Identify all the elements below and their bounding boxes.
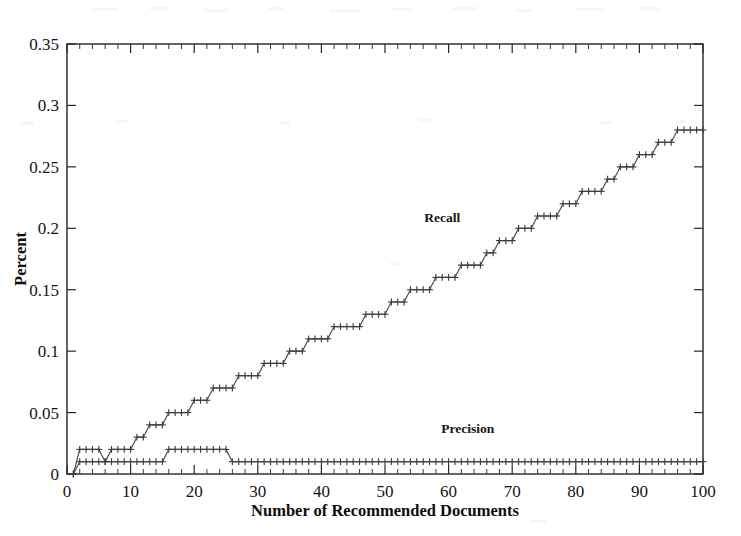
data-point-marker bbox=[687, 127, 694, 134]
data-point-marker bbox=[483, 249, 490, 256]
data-point-marker bbox=[426, 286, 433, 293]
data-point-marker bbox=[299, 348, 306, 355]
data-point-marker bbox=[159, 421, 166, 428]
data-point-marker bbox=[165, 446, 172, 453]
data-point-marker bbox=[413, 286, 420, 293]
data-series-layer bbox=[70, 127, 706, 478]
data-point-marker bbox=[490, 458, 497, 465]
data-point-marker bbox=[223, 385, 230, 392]
data-point-marker bbox=[153, 421, 160, 428]
y-axis-title: Percent bbox=[11, 232, 30, 286]
x-axis-ticks: 0102030405060708090100 bbox=[63, 44, 716, 501]
x-tick-label: 100 bbox=[690, 482, 716, 501]
data-point-marker bbox=[388, 458, 395, 465]
data-point-marker bbox=[204, 397, 211, 404]
data-point-marker bbox=[668, 139, 675, 146]
data-point-marker bbox=[261, 458, 268, 465]
data-point-marker bbox=[89, 446, 96, 453]
data-point-marker bbox=[254, 372, 261, 379]
data-point-marker bbox=[286, 458, 293, 465]
data-point-marker bbox=[617, 163, 624, 170]
data-point-marker bbox=[522, 458, 529, 465]
data-point-marker bbox=[108, 458, 115, 465]
data-point-marker bbox=[464, 458, 471, 465]
y-tick-label: 0.35 bbox=[29, 35, 59, 54]
data-point-marker bbox=[522, 225, 529, 232]
data-point-marker bbox=[375, 311, 382, 318]
data-point-marker bbox=[204, 446, 211, 453]
x-tick-label: 90 bbox=[631, 482, 648, 501]
data-point-marker bbox=[496, 458, 503, 465]
data-point-marker bbox=[579, 458, 586, 465]
data-point-marker bbox=[114, 458, 121, 465]
data-point-marker bbox=[273, 360, 280, 367]
data-point-marker bbox=[445, 274, 452, 281]
data-point-marker bbox=[464, 262, 471, 269]
data-point-marker bbox=[312, 458, 319, 465]
data-point-marker bbox=[642, 151, 649, 158]
data-point-marker bbox=[102, 458, 109, 465]
data-point-marker bbox=[553, 458, 560, 465]
data-point-marker bbox=[273, 458, 280, 465]
data-point-marker bbox=[432, 274, 439, 281]
data-point-marker bbox=[661, 458, 668, 465]
data-point-marker bbox=[598, 458, 605, 465]
data-point-marker bbox=[458, 262, 465, 269]
data-point-marker bbox=[242, 458, 249, 465]
data-point-marker bbox=[502, 458, 509, 465]
data-point-marker bbox=[674, 127, 681, 134]
data-point-marker bbox=[560, 458, 567, 465]
data-point-marker bbox=[337, 458, 344, 465]
data-point-marker bbox=[216, 385, 223, 392]
data-point-marker bbox=[305, 335, 312, 342]
x-tick-label: 10 bbox=[122, 482, 139, 501]
data-point-marker bbox=[382, 311, 389, 318]
data-point-marker bbox=[267, 458, 274, 465]
series-recall bbox=[70, 127, 706, 478]
y-tick-label: 0.1 bbox=[38, 342, 59, 361]
data-point-marker bbox=[343, 323, 350, 330]
data-point-marker bbox=[70, 471, 77, 478]
data-point-marker bbox=[528, 225, 535, 232]
data-point-marker bbox=[401, 458, 408, 465]
data-point-marker bbox=[693, 127, 700, 134]
data-point-marker bbox=[649, 151, 656, 158]
data-point-marker bbox=[623, 458, 630, 465]
data-point-marker bbox=[655, 139, 662, 146]
data-point-marker bbox=[191, 446, 198, 453]
data-point-marker bbox=[541, 213, 548, 220]
data-point-marker bbox=[515, 458, 522, 465]
data-point-marker bbox=[363, 311, 370, 318]
data-point-marker bbox=[350, 323, 357, 330]
data-point-marker bbox=[432, 458, 439, 465]
data-point-marker bbox=[140, 434, 147, 441]
data-point-marker bbox=[585, 188, 592, 195]
data-point-marker bbox=[216, 446, 223, 453]
data-point-marker bbox=[197, 397, 204, 404]
data-point-marker bbox=[280, 360, 287, 367]
precision-recall-plot: 00.050.10.150.20.250.30.35 0102030405060… bbox=[0, 0, 741, 536]
data-point-marker bbox=[153, 458, 160, 465]
data-point-marker bbox=[534, 213, 541, 220]
data-point-marker bbox=[172, 409, 179, 416]
y-tick-label: 0 bbox=[51, 465, 60, 484]
data-point-marker bbox=[553, 213, 560, 220]
data-point-marker bbox=[630, 163, 637, 170]
data-point-marker bbox=[134, 458, 141, 465]
data-point-marker bbox=[229, 385, 236, 392]
data-point-marker bbox=[471, 458, 478, 465]
data-point-marker bbox=[681, 458, 688, 465]
data-point-marker bbox=[172, 446, 179, 453]
data-point-marker bbox=[223, 446, 230, 453]
x-tick-label: 30 bbox=[249, 482, 266, 501]
data-point-marker bbox=[490, 249, 497, 256]
data-point-marker bbox=[668, 458, 675, 465]
data-point-marker bbox=[95, 446, 102, 453]
data-point-marker bbox=[541, 458, 548, 465]
data-point-marker bbox=[248, 458, 255, 465]
plot-frame bbox=[67, 44, 703, 474]
y-tick-label: 0.05 bbox=[29, 404, 59, 423]
x-axis-title: Number of Recommended Documents bbox=[251, 501, 519, 520]
y-tick-label: 0.25 bbox=[29, 158, 59, 177]
data-point-marker bbox=[210, 446, 217, 453]
